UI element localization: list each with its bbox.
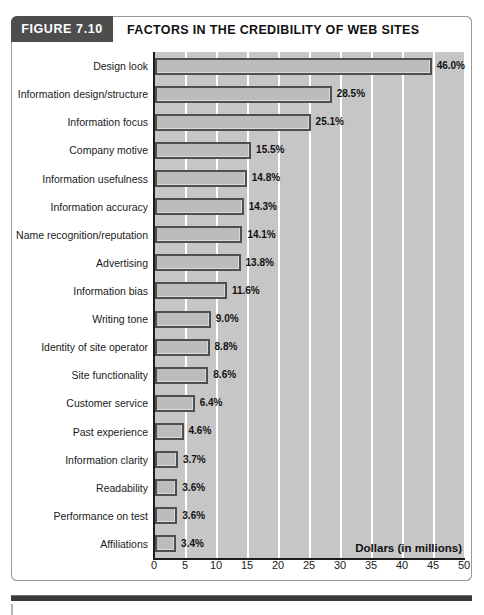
bar-value-label: 14.3% <box>249 202 277 212</box>
bar-row[interactable]: 8.8% <box>155 333 465 361</box>
bar[interactable] <box>155 198 244 215</box>
x-tick-label: 30 <box>334 560 346 571</box>
bar-row[interactable]: 28.5% <box>155 80 465 108</box>
x-tick-label: 40 <box>396 560 408 571</box>
figure-header: FIGURE 7.10 FACTORS IN THE CREDIBILITY O… <box>11 16 472 42</box>
bar-series: 46.0%28.5%25.1%15.5%14.8%14.3%14.1%13.8%… <box>155 52 465 558</box>
bar[interactable] <box>155 423 184 440</box>
bar-value-label: 46.0% <box>437 61 465 71</box>
bar[interactable] <box>155 395 195 412</box>
bar-value-label: 11.6% <box>232 286 260 296</box>
bar[interactable] <box>155 311 211 328</box>
x-tick-label: 45 <box>427 560 439 571</box>
bar[interactable] <box>155 254 241 271</box>
bar-row[interactable]: 14.8% <box>155 164 465 192</box>
bar-value-label: 13.8% <box>246 258 274 268</box>
bar-value-label: 25.1% <box>316 117 344 127</box>
x-tick-label: 15 <box>241 560 253 571</box>
bar-row[interactable]: 25.1% <box>155 108 465 136</box>
category-label: Information usefulness <box>14 174 148 185</box>
category-label: Site functionality <box>14 370 148 381</box>
category-label: Identity of site operator <box>14 342 148 353</box>
bar-value-label: 9.0% <box>216 314 239 324</box>
bar-value-label: 3.6% <box>182 483 205 493</box>
category-label: Information accuracy <box>14 202 148 213</box>
figure-number-label: FIGURE 7.10 <box>11 16 113 42</box>
bar-value-label: 28.5% <box>337 89 365 99</box>
bar[interactable] <box>155 367 208 384</box>
bar-value-label: 3.7% <box>183 455 206 465</box>
bar-value-label: 3.6% <box>182 511 205 521</box>
bar-value-label: 8.8% <box>215 342 238 352</box>
category-label: Writing tone <box>14 314 148 325</box>
bar[interactable] <box>155 282 227 299</box>
bar[interactable] <box>155 479 177 496</box>
bar-value-label: 15.5% <box>256 145 284 155</box>
x-tick-label: 50 <box>458 560 470 571</box>
x-axis-tick-labels: 05101520253035404550 <box>153 560 465 580</box>
bar-row[interactable]: 15.5% <box>155 136 465 164</box>
bar-value-label: 3.4% <box>181 539 204 549</box>
bar-row[interactable]: 46.0% <box>155 52 465 80</box>
category-label: Past experience <box>14 427 148 438</box>
category-label: Information clarity <box>14 455 148 466</box>
bar-value-label: 6.4% <box>200 398 223 408</box>
bar-row[interactable]: 3.6% <box>155 502 465 530</box>
bar[interactable] <box>155 114 311 131</box>
bar-row[interactable]: 3.7% <box>155 446 465 474</box>
category-label: Advertising <box>14 258 148 269</box>
bar-row[interactable]: 14.1% <box>155 221 465 249</box>
bar[interactable] <box>155 339 210 356</box>
x-tick-label: 5 <box>182 560 188 571</box>
x-axis-title: Dollars (in millions) <box>355 542 462 554</box>
category-label: Affiliations <box>14 539 148 550</box>
bar-row[interactable]: 6.4% <box>155 389 465 417</box>
bar[interactable] <box>155 507 177 524</box>
x-tick-label: 20 <box>272 560 284 571</box>
category-label: Performance on test <box>14 511 148 522</box>
bar-row[interactable]: 13.8% <box>155 249 465 277</box>
bar-row[interactable]: 8.6% <box>155 361 465 389</box>
bar-row[interactable]: 14.3% <box>155 193 465 221</box>
category-label: Readability <box>14 483 148 494</box>
bar-value-label: 4.6% <box>189 426 212 436</box>
category-label: Information focus <box>14 117 148 128</box>
bar-value-label: 8.6% <box>213 370 236 380</box>
category-label: Information bias <box>14 286 148 297</box>
page-edge-mark <box>11 604 13 615</box>
x-tick-label: 10 <box>210 560 222 571</box>
chart-region: Design lookInformation design/structureI… <box>11 42 472 581</box>
category-label: Information design/structure <box>14 89 148 100</box>
x-tick-label: 25 <box>303 560 315 571</box>
category-label: Company motive <box>14 145 148 156</box>
category-label: Customer service <box>14 398 148 409</box>
bar[interactable] <box>155 142 251 159</box>
bar-value-label: 14.8% <box>252 173 280 183</box>
x-tick-label: 0 <box>151 560 157 571</box>
category-label: Name recognition/reputation <box>14 230 148 241</box>
x-tick-label: 35 <box>365 560 377 571</box>
bar[interactable] <box>155 170 247 187</box>
bar-row[interactable]: 3.6% <box>155 474 465 502</box>
bar-row[interactable]: 4.6% <box>155 417 465 445</box>
bar-value-label: 14.1% <box>247 230 275 240</box>
bar[interactable] <box>155 86 332 103</box>
bar[interactable] <box>155 451 178 468</box>
bar-row[interactable]: 11.6% <box>155 277 465 305</box>
bar-row[interactable]: 9.0% <box>155 305 465 333</box>
footer-rule <box>11 595 472 601</box>
category-axis-labels: Design lookInformation design/structureI… <box>12 52 148 558</box>
bar[interactable] <box>155 58 432 75</box>
figure-title: FACTORS IN THE CREDIBILITY OF WEB SITES <box>113 16 472 42</box>
bar[interactable] <box>155 535 176 552</box>
category-label: Design look <box>14 61 148 72</box>
bar[interactable] <box>155 226 242 243</box>
plot-area: 46.0%28.5%25.1%15.5%14.8%14.3%14.1%13.8%… <box>153 52 465 560</box>
